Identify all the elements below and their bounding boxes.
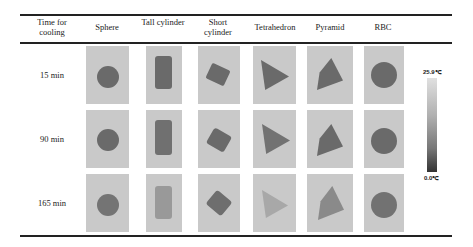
header-rule xyxy=(20,42,452,44)
thermal-image-tall-cylinder-90 xyxy=(146,110,182,168)
header-time: Time for cooling xyxy=(30,17,74,37)
thermal-image-rbc-15 xyxy=(364,46,404,104)
header-short-cylinder: Short cylinder xyxy=(194,17,242,37)
row-label-90min: 90 min xyxy=(22,134,82,144)
thermal-image-short-cylinder-15 xyxy=(198,46,240,104)
colorbar-min-label: 0.0℃ xyxy=(424,174,439,181)
thermal-image-rbc-165 xyxy=(364,174,404,232)
thermal-image-short-cylinder-90 xyxy=(198,110,240,168)
colorbar-max-label: 25.9℃ xyxy=(423,68,442,75)
thermal-image-tall-cylinder-165 xyxy=(146,174,182,232)
header-sphere: Sphere xyxy=(82,22,132,32)
header-tetrahedron: Tetrahedron xyxy=(244,22,306,32)
thermal-image-pyramid-15 xyxy=(307,46,353,104)
thermal-image-tetrahedron-90 xyxy=(253,110,296,168)
thermal-image-pyramid-165 xyxy=(307,174,353,232)
header-tall-cylinder: Tall cylinder xyxy=(140,17,186,27)
thermal-image-rbc-90 xyxy=(364,110,404,168)
thermal-image-sphere-90 xyxy=(86,110,129,168)
thermal-image-tetrahedron-15 xyxy=(253,46,296,104)
header-pyramid: Pyramid xyxy=(305,22,355,32)
thermal-image-tetrahedron-165 xyxy=(253,174,296,232)
header-rbc: RBC xyxy=(360,22,406,32)
row-label-15min: 15 min xyxy=(22,70,82,80)
thermal-image-short-cylinder-165 xyxy=(198,174,240,232)
thermal-image-pyramid-90 xyxy=(307,110,353,168)
row-label-165min: 165 min xyxy=(22,198,82,208)
bottom-rule xyxy=(20,235,452,237)
thermal-image-sphere-165 xyxy=(86,174,129,232)
top-rule xyxy=(20,14,452,16)
temperature-colorbar xyxy=(427,78,437,172)
thermal-image-sphere-15 xyxy=(86,46,129,104)
thermal-image-tall-cylinder-15 xyxy=(146,46,182,104)
